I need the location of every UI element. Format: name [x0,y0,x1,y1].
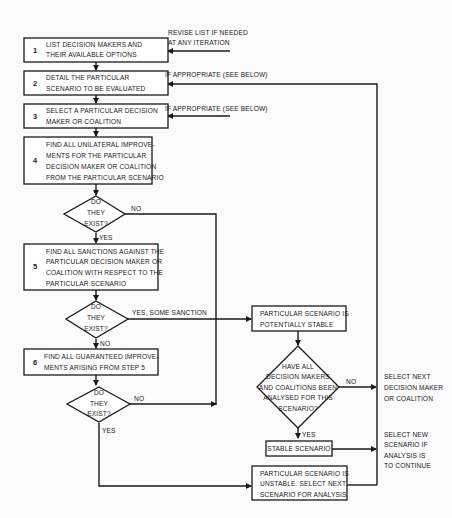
step-text: SCENARIO TO BE EVALUATED [46,85,146,92]
annotation-select-new-scenario: SCENARIO IF [384,441,428,448]
step-text: COALITION WITH RESPECT TO THE [46,269,164,276]
step-number: 6 [33,358,37,367]
step-number: 5 [33,262,37,271]
annotation-revise-list: AT ANY ITERATION [168,39,230,46]
annotation-select-next-dm: OR COALITION [384,395,433,402]
no-label: NO [134,395,144,402]
annotation-select-next-dm: SELECT NEXT [384,373,431,380]
step-text: THEIR AVAILABLE OPTIONS [46,51,137,58]
decision-text: EXIST? [84,325,108,332]
decision-text: THEY [87,314,106,321]
step-text: FIND ALL UNILATERAL IMPROVE- [46,141,155,148]
step-number: 1 [33,46,37,55]
outcome-text: PARTICULAR SCENARIO IS [260,310,349,317]
outcome-text: PARTICULAR SCENARIO IS [260,470,349,477]
step-2: 2 DETAIL THE PARTICULAR SCENARIO TO BE E… [24,71,168,95]
outcome-text: STABLE SCENARIO [267,445,330,452]
step-4: 4 FIND ALL UNILATERAL IMPROVE- MENTS FOR… [24,137,164,184]
yes-label: YES [102,427,116,434]
annotation-revise-list: REVISE LIST IF NEEDED [168,29,248,36]
step-text: LIST DECISION MAKERS AND [46,41,142,48]
decision-text: EXIST? [87,410,111,417]
step-number: 2 [33,79,37,88]
decision-text: THEY [90,400,109,407]
decision-text: THEY [87,209,106,216]
step-text: DETAIL THE PARTICULAR [46,74,129,81]
step-text: PARTICULAR DECISION MAKER OR [46,258,162,265]
annotation-select-new-scenario: TO CONTINUE [384,462,431,469]
decision-text: DO [94,389,104,396]
unstable-scenario-box: PARTICULAR SCENARIO IS UNSTABLE. SELECT … [252,466,349,500]
annotation-if-appropriate: IF APPROPRIATE (SEE BELOW) [165,105,268,113]
step-text: MAKER OR COALITION [46,118,121,125]
step-1: 1 LIST DECISION MAKERS AND THEIR AVAILAB… [24,38,168,62]
outcome-text: POTENTIALLY STABLE [260,321,334,328]
decision-text: HAVE ALL [282,363,314,370]
step-text: SELECT A PARTICULAR DECISION [46,107,158,114]
no-label: NO [131,205,141,212]
decision-3: DO THEY EXIST? NO YES [67,387,144,434]
step-text: FROM THE PARTICULAR SCENARIO [46,174,164,181]
decision-2: DO THEY EXIST? YES, SOME SANCTION NO [66,301,207,347]
decision-4: HAVE ALL DECISION MAKERS AND COALITIONS … [257,346,356,438]
outcome-text: SCENARIO FOR ANALYSIS [260,491,347,498]
stability-analysis-flowchart: 1 LIST DECISION MAKERS AND THEIR AVAILAB… [0,0,452,518]
step-text: DECISION MAKER OR COALITION [46,163,156,170]
potentially-stable-box: PARTICULAR SCENARIO IS POTENTIALLY STABL… [252,306,349,331]
step-text: FIND ALL SANCTIONS AGAINST THE [46,248,165,255]
decision-text: AND COALITIONS BEEN [259,384,337,391]
step-number: 3 [33,112,37,121]
decision-text: ANALYSED FOR THIS [263,394,333,401]
no-label: NO [346,378,356,385]
yes-label: YES, SOME SANCTION [132,309,207,316]
annotation-if-appropriate: IF APPROPRIATE (SEE BELOW) [165,71,268,79]
decision-1: DO THEY EXIST? NO YES [64,196,141,241]
decision-text: SCENARIO? [278,405,318,412]
return-line-to-step2 [168,84,377,485]
step-text: FIND ALL GUARANTEED IMPROVE- [44,353,159,360]
step-5: 5 FIND ALL SANCTIONS AGAINST THE PARTICU… [24,244,165,290]
step-text: MENTS FOR THE PARTICULAR [46,152,146,159]
outcome-text: UNSTABLE. SELECT NEXT [260,480,346,487]
yes-label: YES [99,234,113,241]
step-text: PARTICULAR SCENARIO [46,280,126,287]
no-label: NO [100,340,110,347]
annotation-select-next-dm: DECISION MAKER [384,384,443,391]
stable-scenario-box: STABLE SCENARIO [266,441,332,456]
yes-label: YES [302,431,316,438]
decision-text: DECISION MAKERS [266,373,330,380]
arrow-d3-yes [99,423,251,486]
step-3: 3 SELECT A PARTICULAR DECISION MAKER OR … [24,104,168,128]
annotation-select-new-scenario: SELECT NEW [384,431,429,438]
annotation-select-new-scenario: ANALYSIS IS [384,452,426,459]
decision-text: DO [91,303,101,310]
decision-text: EXIST? [84,220,108,227]
step-text: MENTS ARISING FROM STEP 5 [44,364,145,371]
decision-text: DO [91,198,101,205]
step-6: 6 FIND ALL GUARANTEED IMPROVE- MENTS ARI… [24,349,159,375]
